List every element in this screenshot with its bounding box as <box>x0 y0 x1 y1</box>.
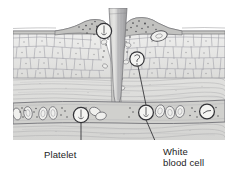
white-blood-cell-label-line2: blood cell <box>163 157 204 168</box>
white-blood-cell-mid <box>130 52 144 66</box>
white-blood-cell-label: White blood cell <box>163 146 204 168</box>
white-blood-cell-label-line1: White <box>163 146 204 157</box>
blood-vessel <box>12 100 225 124</box>
platelet-cell <box>73 107 88 122</box>
platelet-label: Platelet <box>44 149 77 160</box>
white-blood-cell-right <box>200 104 215 119</box>
skin-wound-figure: Platelet White blood cell <box>0 0 235 183</box>
white-blood-cell-upper-left <box>96 23 111 38</box>
white-blood-cell-vessel <box>139 105 154 120</box>
